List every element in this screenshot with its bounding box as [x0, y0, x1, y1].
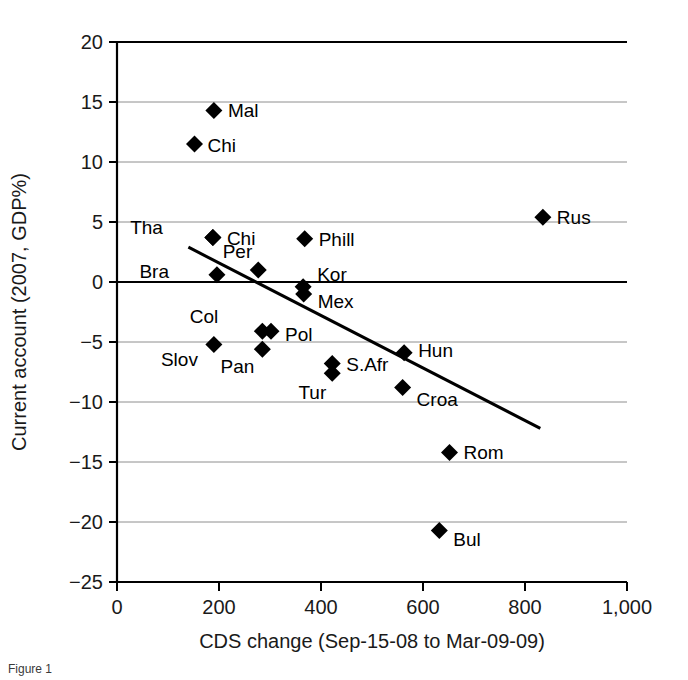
data-point-phill	[296, 230, 313, 247]
data-label-rom: Rom	[464, 442, 504, 463]
data-label-mal: Mal	[228, 100, 259, 121]
x-tick-label-800: 800	[508, 596, 541, 618]
data-label-croa: Croa	[417, 389, 459, 410]
y-tick-label-10: 10	[81, 151, 103, 173]
data-point-slov	[205, 336, 222, 353]
data-label-phill: Phill	[319, 229, 355, 250]
x-tick-label-600: 600	[406, 596, 439, 618]
data-label-pan: Pan	[221, 356, 255, 377]
data-point-pol	[263, 323, 280, 340]
data-point-per	[250, 262, 267, 279]
data-point-croa	[394, 379, 411, 396]
y-tick-label--25: −25	[69, 571, 103, 593]
data-point-rom	[441, 444, 458, 461]
x-axis-title: CDS change (Sep-15-08 to Mar-09-09)	[199, 630, 545, 652]
y-tick-label--20: −20	[69, 511, 103, 533]
figure-container: 20151050−5−10−15−20−2502004006008001,000…	[0, 0, 688, 680]
data-label-col: Col	[190, 306, 219, 327]
y-tick-label-0: 0	[92, 271, 103, 293]
data-point-chi	[186, 136, 203, 153]
y-tick-label-20: 20	[81, 31, 103, 53]
data-label-chi: Chi	[208, 135, 237, 156]
trend-line	[188, 247, 540, 428]
scatter-chart: 20151050−5−10−15−20−2502004006008001,000…	[0, 0, 688, 680]
data-label-mex: Mex	[318, 291, 354, 312]
data-point-mal	[205, 102, 222, 119]
data-label-tha: Tha	[130, 217, 163, 238]
data-point-bra	[208, 266, 225, 283]
data-label-pol: Pol	[285, 324, 312, 345]
y-tick-label--15: −15	[69, 451, 103, 473]
data-label-tur: Tur	[298, 382, 326, 403]
data-label-bul: Bul	[453, 529, 480, 550]
x-tick-label-0: 0	[111, 596, 122, 618]
data-label-rus: Rus	[557, 207, 591, 228]
y-tick-label-15: 15	[81, 91, 103, 113]
x-tick-label-1000: 1,000	[602, 596, 652, 618]
y-axis-title: Current account (2007, GDP%)	[8, 173, 30, 451]
data-point-bul	[431, 522, 448, 539]
data-label-bra: Bra	[139, 261, 169, 282]
data-point-hun	[396, 344, 413, 361]
data-label-hun: Hun	[418, 340, 453, 361]
data-point-tur	[324, 365, 341, 382]
data-point-rus	[534, 209, 551, 226]
figure-caption: Figure 1	[8, 662, 52, 676]
data-point-pan	[254, 341, 271, 358]
data-label-safr: S.Afr	[346, 354, 389, 375]
data-label-slov: Slov	[161, 349, 198, 370]
data-point-chi	[204, 229, 221, 246]
y-tick-label--10: −10	[69, 391, 103, 413]
data-label-kor: Kor	[317, 264, 347, 285]
x-tick-label-200: 200	[202, 596, 235, 618]
y-tick-label-5: 5	[92, 211, 103, 233]
data-label-per: Per	[223, 241, 253, 262]
y-tick-label--5: −5	[80, 331, 103, 353]
x-tick-label-400: 400	[304, 596, 337, 618]
